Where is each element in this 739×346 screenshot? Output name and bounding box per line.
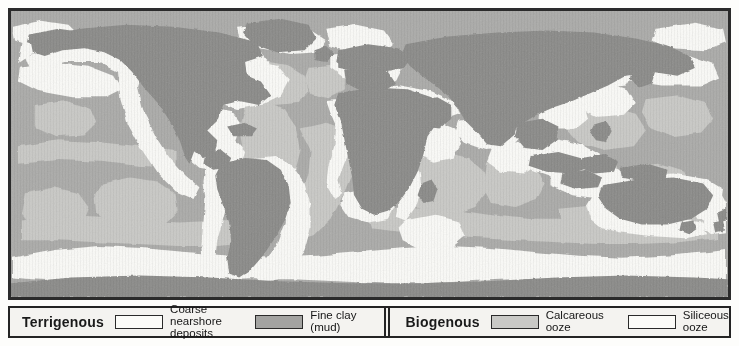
world-map-graphic: [11, 11, 728, 297]
calcareous-ooze-swatch: [491, 315, 539, 329]
legend-label-siliceous-ooze: Siliceous ooze: [683, 310, 729, 333]
map-grain-overlay: [11, 11, 728, 297]
map-legend: Terrigenous Coarse nearshore deposits Fi…: [8, 306, 731, 338]
legend-entry-calcareous-ooze[interactable]: Calcareous ooze: [491, 310, 604, 333]
legend-label-coarse-nearshore-deposits: Coarse nearshore deposits: [170, 304, 231, 339]
legend-label-calcareous-ooze: Calcareous ooze: [546, 310, 604, 333]
siliceous-ooze-swatch: [628, 315, 676, 329]
legend-title-terrigenous: Terrigenous: [22, 314, 104, 330]
legend-title-biogenous: Biogenous: [406, 314, 480, 330]
legend-section-divider: [384, 308, 390, 336]
sediment-distribution-figure: Terrigenous Coarse nearshore deposits Fi…: [0, 0, 739, 346]
legend-group-biogenous: Biogenous Calcareous ooze Siliceous ooze: [392, 308, 730, 336]
legend-group-terrigenous: Terrigenous Coarse nearshore deposits Fi…: [10, 308, 362, 336]
legend-gap: [362, 308, 382, 336]
coarse-nearshore-deposits-swatch: [115, 315, 163, 329]
legend-label-fine-clay-mud: Fine clay (mud): [310, 310, 361, 333]
legend-entry-siliceous-ooze[interactable]: Siliceous ooze: [628, 310, 729, 333]
world-map-panel: [8, 8, 731, 300]
legend-entry-coarse-nearshore-deposits[interactable]: Coarse nearshore deposits: [115, 304, 231, 339]
legend-entry-fine-clay-mud[interactable]: Fine clay (mud): [255, 310, 361, 333]
fine-clay-mud-swatch: [255, 315, 303, 329]
